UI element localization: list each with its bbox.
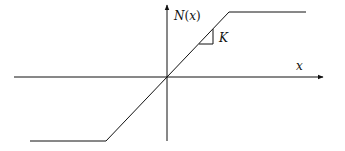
y-axis-label: N(x) xyxy=(173,9,201,23)
slope-label: K xyxy=(218,31,229,45)
saturation-diagram: N(x) K x xyxy=(0,0,345,151)
x-axis-label: x xyxy=(296,59,303,73)
